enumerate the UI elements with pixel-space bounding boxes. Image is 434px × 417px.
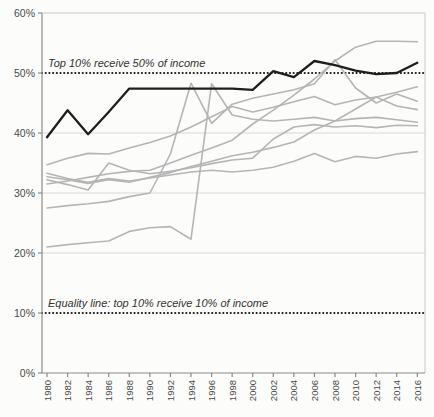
x-axis-label-1986: 1986 (103, 380, 114, 401)
x-axis-label-1994: 1994 (186, 380, 197, 401)
chart-canvas: Top 10% receive 50% of incomeEquality li… (0, 0, 434, 417)
y-axis-label-0: 0% (20, 367, 35, 379)
x-axis-label-2004: 2004 (288, 380, 299, 401)
y-axis-label-60: 60% (14, 7, 35, 19)
x-axis-label-2016: 2016 (412, 380, 423, 401)
y-axis-label-50: 50% (14, 67, 35, 79)
x-axis-label-2006: 2006 (309, 380, 320, 401)
x-axis-label-1982: 1982 (62, 380, 73, 401)
x-axis-label-1992: 1992 (165, 380, 176, 401)
x-axis-label-1990: 1990 (144, 380, 155, 401)
y-axis-label-40: 40% (14, 127, 35, 139)
series-line-gray-4 (47, 84, 417, 247)
reference-label-50: Top 10% receive 50% of income (48, 57, 205, 69)
x-axis-label-1988: 1988 (124, 380, 135, 401)
x-axis-label-1996: 1996 (206, 380, 217, 401)
x-axis-label-2008: 2008 (330, 380, 341, 401)
x-axis-label-1998: 1998 (227, 380, 238, 401)
income-share-chart: Top 10% receive 50% of incomeEquality li… (0, 0, 434, 417)
x-axis-label-2010: 2010 (350, 380, 361, 401)
series-line-gray-3 (47, 60, 417, 208)
x-axis-label-2000: 2000 (247, 380, 258, 401)
y-axis-label-10: 10% (14, 307, 35, 319)
x-axis-label-2012: 2012 (371, 380, 382, 401)
y-axis-label-30: 30% (14, 187, 35, 199)
x-axis-label-1980: 1980 (42, 380, 53, 401)
y-axis-label-20: 20% (14, 247, 35, 259)
x-axis-label-2002: 2002 (268, 380, 279, 401)
x-axis-label-2014: 2014 (391, 380, 402, 401)
x-axis-label-1984: 1984 (83, 380, 94, 401)
reference-label-10: Equality line: top 10% receive 10% of in… (48, 297, 268, 309)
